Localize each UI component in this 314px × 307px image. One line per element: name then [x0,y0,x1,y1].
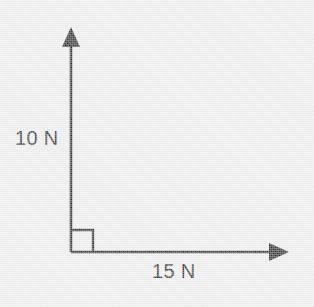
horizontal-force-label: 15 N [152,261,195,281]
force-vector-diagram: 10 N 15 N [0,0,314,307]
arrow-right-icon [269,243,289,261]
arrow-up-icon [62,27,80,47]
vertical-force-label: 10 N [15,128,58,148]
right-angle-icon [71,230,93,252]
